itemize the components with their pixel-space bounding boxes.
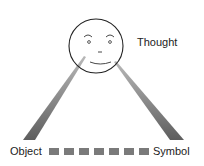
symbol-label: Symbol [153, 146, 190, 157]
object-label: Object [10, 146, 42, 157]
thought-object-beam [23, 56, 86, 140]
semiotic-triangle-diagram: Thought Object Symbol [0, 0, 204, 166]
diagram-graphics [0, 0, 204, 166]
thought-label: Thought [137, 37, 177, 48]
object-symbol-link [49, 148, 149, 155]
thought-symbol-beam [114, 61, 184, 140]
thought-face-icon [69, 19, 123, 73]
